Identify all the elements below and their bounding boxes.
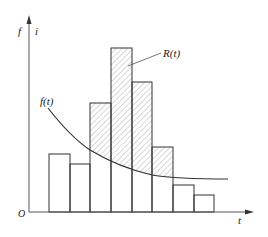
histogram-bar — [194, 195, 214, 212]
region-label-r: R(t) — [162, 47, 180, 60]
curve-label-f: f(t) — [40, 95, 54, 108]
y-label-f: f — [18, 25, 23, 37]
histogram-bar — [173, 185, 194, 212]
histogram-bar — [49, 154, 70, 212]
x-axis-arrow-icon — [245, 210, 254, 215]
y-axis-arrow-icon — [27, 15, 32, 24]
x-label-t: t — [238, 214, 242, 226]
diagram-canvas: f i O t f(t) R(t) — [0, 0, 268, 237]
r-leader-line — [128, 53, 161, 66]
histogram-bar — [70, 164, 90, 212]
origin-label: O — [18, 208, 25, 219]
y-label-i: i — [35, 25, 38, 37]
